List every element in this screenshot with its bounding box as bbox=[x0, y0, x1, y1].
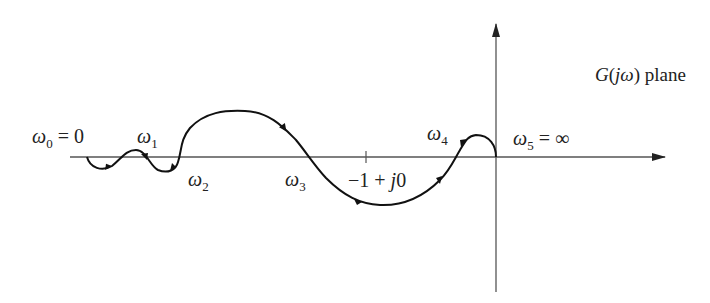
label-omega-2: ω2 bbox=[188, 168, 209, 194]
nyquist-diagram: G(jω) plane ω0 = 0 ω1 ω2 ω3 −1 + j0 ω4 ω… bbox=[0, 0, 710, 303]
direction-arrows bbox=[103, 122, 467, 205]
label-omega-0: ω0 = 0 bbox=[32, 125, 84, 151]
plane-title: G(jω) plane bbox=[595, 64, 686, 86]
label-omega-1: ω1 bbox=[137, 125, 158, 151]
label-omega-4: ω4 bbox=[427, 122, 448, 148]
label-omega-3: ω3 bbox=[285, 168, 306, 194]
label-critical-point: −1 + j0 bbox=[348, 169, 406, 192]
label-omega-5: ω5 = ∞ bbox=[513, 127, 569, 153]
